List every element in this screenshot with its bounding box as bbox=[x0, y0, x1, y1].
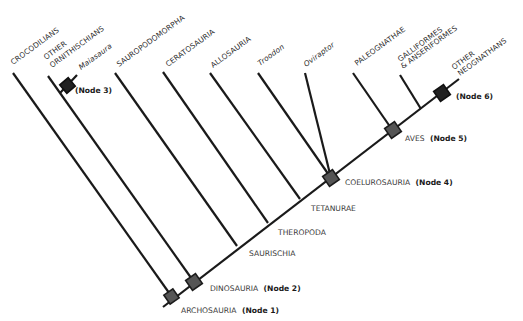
cladogram: CROCODILIANS OTHER ORNITHISCHIANS Maiasa… bbox=[0, 0, 523, 321]
label-node-1: ARCHOSAURIA (Node 1) bbox=[181, 306, 279, 315]
label-saurischia: SAURISCHIA bbox=[249, 249, 296, 258]
node-1-marker bbox=[164, 289, 179, 304]
branch-ceratosauria bbox=[163, 72, 268, 223]
branch-galliformes bbox=[400, 75, 421, 109]
branch-ornithischians bbox=[48, 76, 194, 282]
label-troodon: Troodon bbox=[256, 42, 286, 67]
label-node-3: (Node 3) bbox=[75, 86, 112, 95]
node-5-name: AVES bbox=[405, 134, 425, 143]
node-4-name: COELUROSAURIA bbox=[345, 178, 411, 187]
label-theropoda: THEROPODA bbox=[277, 228, 327, 237]
node-1-tag: (Node 1) bbox=[242, 306, 279, 315]
node-2-tag: (Node 2) bbox=[264, 284, 301, 293]
cladogram-svg: CROCODILIANS OTHER ORNITHISCHIANS Maiasa… bbox=[0, 0, 523, 321]
label-tetanurae: TETANURAE bbox=[310, 204, 356, 213]
label-allosauria: ALLOSAURIA bbox=[209, 34, 253, 69]
node-5-tag: (Node 5) bbox=[430, 134, 467, 143]
branch-crocodilians bbox=[13, 73, 172, 297]
node-2-name: DINOSAURIA bbox=[210, 284, 259, 293]
label-node-2: DINOSAURIA (Node 2) bbox=[210, 284, 301, 293]
label-node-5: AVES (Node 5) bbox=[405, 134, 467, 143]
node-4-tag: (Node 4) bbox=[416, 178, 453, 187]
label-node-6: (Node 6) bbox=[456, 92, 493, 101]
branch-paleognathae bbox=[353, 73, 393, 131]
node-1-name: ARCHOSAURIA bbox=[181, 306, 237, 315]
branch-oviraptor bbox=[305, 73, 331, 178]
label-oviraptor: Oviraptor bbox=[302, 40, 337, 69]
branch-troodon bbox=[258, 73, 331, 178]
branch-allosauria bbox=[210, 73, 300, 199]
main-spine bbox=[163, 79, 459, 307]
label-node-4: COELUROSAURIA (Node 4) bbox=[345, 178, 453, 187]
branch-sauropodomorpha bbox=[115, 73, 237, 246]
